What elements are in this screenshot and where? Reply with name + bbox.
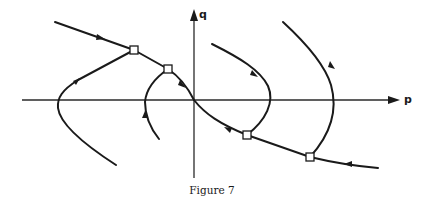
square-marker-icon (130, 46, 138, 54)
square-marker-icon (243, 131, 251, 139)
square-marker-icon (306, 153, 314, 161)
trajectory-lower-separatrix (194, 100, 378, 168)
trajectory-upper-separatrix (55, 22, 194, 100)
figure-caption: Figure 7 (0, 184, 424, 196)
flow-arrow-icon (328, 61, 335, 69)
p-axis-arrow-icon (388, 96, 400, 104)
flow-arrow-icon (224, 127, 232, 133)
p-axis (22, 96, 400, 104)
flow-arrow-icon (73, 78, 80, 85)
trajectory-inner-left-branch (145, 69, 168, 139)
q-axis-label: q (199, 9, 207, 20)
flow-arrow-icon (96, 34, 105, 40)
trajectory-right-branch (283, 22, 333, 157)
phase-portrait-diagram (0, 0, 424, 199)
flow-arrow-icon (344, 161, 352, 167)
q-axis-arrow-icon (190, 9, 198, 21)
square-marker-icon (164, 65, 172, 73)
p-axis-label: p (404, 94, 412, 105)
trajectory-left-branch (58, 50, 134, 165)
